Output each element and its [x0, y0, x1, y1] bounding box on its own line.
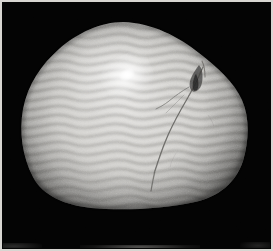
photograph-canvas: Grayscale specimen photograph rounded pe… [0, 0, 273, 251]
chevron-texture [3, 3, 270, 248]
photo-field [3, 3, 270, 248]
specimen-wrap [3, 3, 270, 248]
